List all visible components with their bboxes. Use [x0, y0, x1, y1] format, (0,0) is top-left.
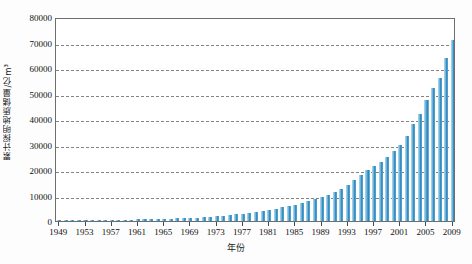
bar [195, 218, 199, 221]
plot-area [55, 18, 455, 222]
bar [228, 215, 232, 221]
bar [280, 207, 284, 221]
bar [385, 157, 389, 221]
bar [379, 162, 383, 221]
y-tick-label: 20000 [30, 166, 53, 176]
bar [274, 209, 278, 221]
bar [83, 220, 87, 221]
x-tick-label: 1953 [76, 227, 94, 237]
bar [97, 220, 101, 221]
x-tick-mark [452, 222, 453, 226]
bar [320, 197, 324, 221]
bar [116, 220, 120, 221]
gas-reserves-bar-chart: 累计探明地质储量/亿m³ 010000200003000040000500006… [0, 0, 472, 264]
bar [300, 203, 304, 221]
bar [254, 212, 258, 221]
bar [162, 219, 166, 221]
bar [142, 219, 146, 221]
x-tick-mark [163, 222, 164, 226]
bar [451, 40, 455, 221]
bar [418, 114, 422, 221]
bar [352, 180, 356, 221]
x-tick-label: 1973 [207, 227, 225, 237]
bar [372, 166, 376, 221]
bar [411, 124, 415, 221]
x-tick-mark [399, 222, 400, 226]
bar [247, 213, 251, 221]
bar [215, 216, 219, 221]
bar [424, 100, 428, 221]
x-tick-mark [373, 222, 374, 226]
bar [175, 218, 179, 221]
x-tick-label: 2001 [390, 227, 408, 237]
bar [359, 175, 363, 221]
bar [333, 192, 337, 221]
y-tick-label: 70000 [30, 39, 53, 49]
bar [169, 219, 173, 221]
x-tick-label: 1965 [154, 227, 172, 237]
x-tick-label: 1957 [102, 227, 120, 237]
x-tick-mark [347, 222, 348, 226]
bar [77, 220, 81, 221]
y-tick-label: 50000 [30, 90, 53, 100]
x-tick-label: 1981 [259, 227, 277, 237]
bar [188, 218, 192, 221]
y-tick-label: 0 [48, 217, 53, 227]
y-axis-tick-labels: 0100002000030000400005000060000700008000… [0, 0, 55, 264]
bar [123, 220, 127, 221]
x-tick-mark [294, 222, 295, 226]
bar [182, 218, 186, 221]
x-tick-label: 1997 [364, 227, 382, 237]
bar [149, 219, 153, 221]
bar [438, 78, 442, 221]
bar [57, 220, 61, 221]
bar [103, 220, 107, 221]
x-tick-mark [321, 222, 322, 226]
x-axis-title: 年份 [0, 241, 472, 254]
x-tick-label: 1989 [312, 227, 330, 237]
bar [306, 201, 310, 221]
bar [267, 210, 271, 221]
x-tick-label: 2005 [416, 227, 434, 237]
y-tick-label: 80000 [30, 13, 53, 23]
x-tick-mark [137, 222, 138, 226]
bar [70, 220, 74, 221]
bar [405, 136, 409, 221]
bar [64, 220, 68, 221]
bar [326, 195, 330, 221]
bar [129, 220, 133, 221]
y-tick-label: 40000 [30, 115, 53, 125]
bar [339, 189, 343, 221]
y-tick-label: 30000 [30, 141, 53, 151]
x-tick-mark [268, 222, 269, 226]
x-tick-label: 1961 [128, 227, 146, 237]
x-tick-label: 1977 [233, 227, 251, 237]
x-tick-mark [425, 222, 426, 226]
bar [241, 214, 245, 221]
x-tick-mark [111, 222, 112, 226]
y-tick-label: 10000 [30, 192, 53, 202]
bar [221, 216, 225, 221]
bar [156, 219, 160, 221]
bar [444, 58, 448, 221]
x-tick-label: 1985 [285, 227, 303, 237]
bar [313, 199, 317, 221]
bar [398, 145, 402, 222]
x-tick-mark [242, 222, 243, 226]
bar [293, 205, 297, 221]
bar [234, 214, 238, 221]
bar [136, 219, 140, 221]
bar [346, 185, 350, 221]
x-tick-mark [216, 222, 217, 226]
bar [208, 217, 212, 221]
bar [365, 170, 369, 221]
y-tick-label: 60000 [30, 64, 53, 74]
bar [287, 206, 291, 221]
bar [110, 220, 114, 221]
bar-series [56, 19, 454, 221]
x-tick-label: 2009 [443, 227, 461, 237]
x-tick-mark [58, 222, 59, 226]
x-tick-mark [189, 222, 190, 226]
bar [202, 217, 206, 221]
x-tick-label: 1969 [180, 227, 198, 237]
